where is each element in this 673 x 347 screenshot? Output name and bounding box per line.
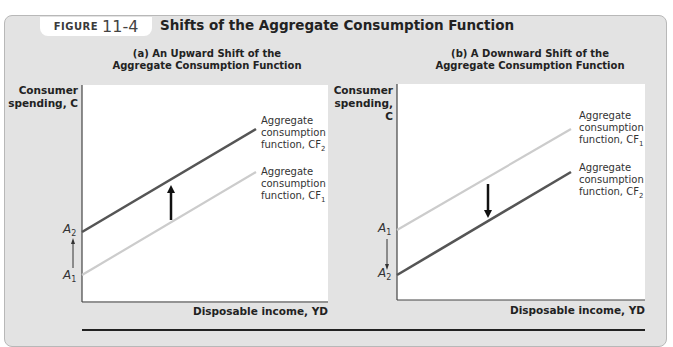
panel-b-intercept-lower: A2 (378, 266, 391, 282)
panel-b-cf2-line (397, 172, 571, 275)
panel-b-intercept-upper: A1 (378, 221, 391, 237)
panel-b-x-axis-label: Disposable income, YD (480, 304, 645, 316)
panel-b-cf1-label: Aggregate consumption function, CF1 (579, 110, 644, 150)
panel-b-down-arrow-icon (484, 184, 492, 218)
panel-b-cf2-label: Aggregate consumption function, CF2 (579, 162, 644, 202)
bottom-rule (82, 329, 645, 331)
panel-b-cf1-line (397, 129, 571, 230)
